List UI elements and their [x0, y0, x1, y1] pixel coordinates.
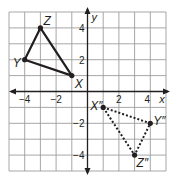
y-axis-label: y	[91, 11, 99, 23]
x-axis-arrow-left-icon	[9, 89, 16, 95]
x-tick-label: 2	[116, 94, 122, 105]
y-tick-label: −2	[73, 118, 85, 129]
vertex-label: Y	[13, 56, 22, 70]
y-tick-label: 2	[79, 55, 85, 66]
x-tick-label: −2	[50, 94, 62, 105]
y-axis-arrow-up-icon	[85, 7, 91, 14]
y-tick-label: −4	[73, 150, 85, 161]
vertex-point	[148, 121, 153, 126]
y-axis-arrow-down-icon	[85, 168, 91, 175]
coordinate-plane: xy −4−22442−2−4 XYZX″Y″Z″	[0, 0, 175, 182]
vertex-point	[69, 73, 74, 78]
vertex-point	[38, 25, 43, 30]
triangle-XYZ	[25, 28, 72, 76]
vertex-point	[22, 57, 27, 62]
vertex-label: Y″	[153, 114, 166, 128]
vertex-label: Z	[42, 14, 51, 28]
vertex-label: Z″	[136, 156, 149, 170]
triangle-XYZ-double-prime	[103, 107, 150, 155]
x-tick-label: −4	[19, 94, 31, 105]
x-tick-label: 4	[145, 94, 151, 105]
axes: xy	[9, 7, 170, 175]
vertex-label: X″	[89, 99, 103, 113]
y-tick-label: 4	[79, 23, 85, 34]
vertex-label: X	[74, 77, 84, 91]
x-axis-label: x	[158, 93, 165, 105]
